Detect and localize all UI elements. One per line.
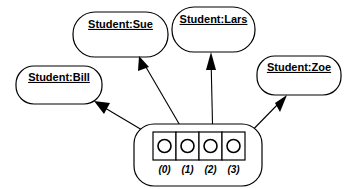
- array-index-label-0: (0): [158, 164, 171, 175]
- reference-circle-0[interactable]: [158, 140, 171, 153]
- reference-circle-3[interactable]: [227, 140, 240, 153]
- array-index-label-2: (2): [204, 164, 217, 175]
- diagram-canvas: Student:Sue Student:Lars Student:Bill St…: [0, 0, 347, 189]
- object-box-sue[interactable]: Student:Sue: [73, 12, 168, 57]
- arrow-head-zoe: [275, 95, 287, 112]
- arrow-head-bill: [94, 101, 110, 114]
- array-object[interactable]: (0) (1) (2) (3): [134, 124, 262, 186]
- object-label-sue: Student:Sue: [88, 18, 153, 30]
- object-label-bill: Student:Bill: [28, 71, 90, 83]
- arrow-head-lars: [206, 52, 216, 70]
- array-index-label-1: (1): [181, 164, 194, 175]
- object-label-zoe: Student:Zoe: [267, 61, 331, 73]
- object-label-lars: Student:Lars: [180, 13, 248, 25]
- reference-circle-2[interactable]: [204, 140, 217, 153]
- reference-circle-1[interactable]: [181, 140, 194, 153]
- array-index-label-3: (3): [227, 164, 240, 175]
- object-box-bill[interactable]: Student:Bill: [16, 66, 102, 104]
- object-box-lars[interactable]: Student:Lars: [172, 7, 255, 52]
- object-box-zoe[interactable]: Student:Zoe: [257, 56, 341, 95]
- diagram-svg: Student:Sue Student:Lars Student:Bill St…: [0, 0, 347, 189]
